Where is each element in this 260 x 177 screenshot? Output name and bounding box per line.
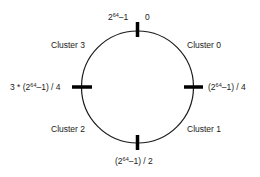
label-top-max: 264–1 [108,12,128,22]
label-cluster-2: Cluster 2 [51,124,85,134]
hash-ring [82,31,194,143]
label-cluster-3: Cluster 3 [51,40,85,50]
label-top-zero: 0 [145,12,150,22]
label-cluster-1: Cluster 1 [187,124,221,134]
label-tick-bottom: (264–1) / 2 [115,156,153,166]
label-cluster-0: Cluster 0 [187,40,221,50]
label-tick-left: 3 * (264–1) / 4 [10,82,61,92]
label-tick-right: (264–1) / 4 [208,82,246,92]
